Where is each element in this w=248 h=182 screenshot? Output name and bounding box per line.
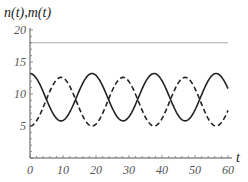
x-tick-label: 10 (57, 163, 69, 177)
x-tick-label: 0 (27, 163, 33, 177)
y-tick-label: 20 (14, 23, 26, 37)
line-chart: 5101520 0102030405060 n(t),m(t) t (0, 0, 248, 182)
x-tick-label: 60 (222, 163, 234, 177)
x-tick-label: 50 (189, 163, 201, 177)
x-tick-label: 30 (122, 163, 135, 177)
y-tick-label: 5 (20, 119, 26, 133)
x-axis-title: t (236, 150, 241, 165)
axes: 5101520 0102030405060 n(t),m(t) t (4, 5, 241, 177)
x-tick-label: 20 (90, 163, 102, 177)
series-layer (30, 74, 228, 126)
y-tick-label: 15 (14, 55, 26, 69)
y-axis-title: n(t),m(t) (4, 5, 51, 21)
y-tick-label: 10 (14, 87, 26, 101)
x-tick-label: 40 (156, 163, 168, 177)
